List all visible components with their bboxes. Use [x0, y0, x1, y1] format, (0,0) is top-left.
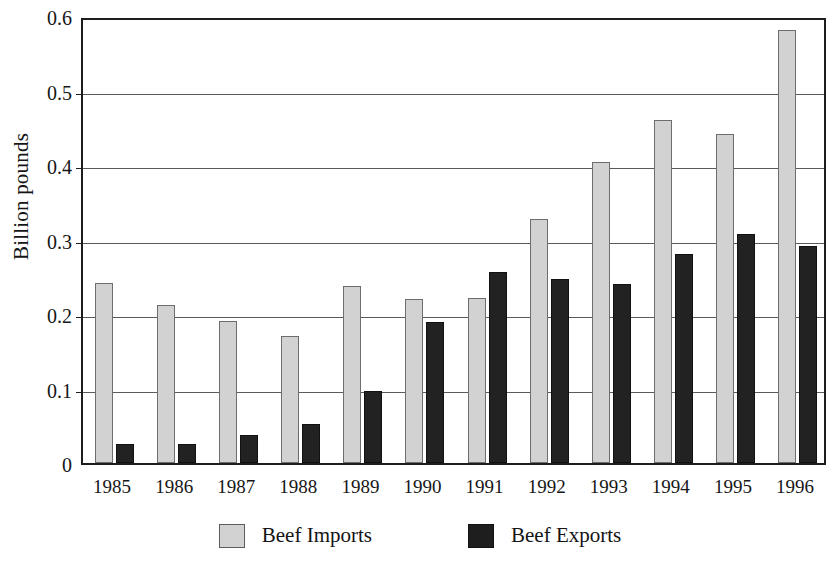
bar-imports: [281, 336, 299, 463]
bar-group: [269, 20, 331, 463]
bar-imports: [95, 283, 113, 463]
bar-exports: [799, 246, 817, 463]
bar-imports: [468, 298, 486, 463]
bar-group: [145, 20, 207, 463]
bar-imports: [778, 30, 796, 463]
bar-group: [331, 20, 393, 463]
bar-exports: [613, 284, 631, 463]
bar-exports: [240, 435, 258, 463]
y-axis-tick-mark: [76, 94, 83, 95]
y-axis-tick-label: 0.2: [8, 305, 72, 328]
legend-swatch-exports-icon: [468, 524, 494, 548]
plot-area: [81, 18, 826, 465]
x-axis-tick-labels: 1985198619871988198919901991199219931994…: [81, 476, 826, 510]
bar-imports: [343, 286, 361, 463]
bar-imports: [716, 134, 734, 463]
y-axis-tick-mark: [76, 168, 83, 169]
bar-exports: [737, 234, 755, 463]
y-axis-tick-label: 0.5: [8, 81, 72, 104]
bar-exports: [551, 279, 569, 463]
bar-imports: [157, 305, 175, 463]
bar-imports: [530, 219, 548, 463]
bar-exports: [178, 444, 196, 463]
y-axis-tick-label: 0: [8, 454, 72, 477]
legend-swatch-imports-icon: [219, 524, 245, 548]
bar-imports: [592, 162, 610, 463]
legend-item-exports[interactable]: Beef Exports: [468, 523, 621, 548]
bar-exports: [675, 254, 693, 463]
x-axis-tick-label-1996: 1996: [758, 476, 832, 498]
legend-item-imports[interactable]: Beef Imports: [219, 523, 372, 548]
y-axis-tick-mark: [76, 392, 83, 393]
bar-exports: [364, 391, 382, 463]
bar-exports: [426, 322, 444, 463]
bar-imports: [654, 120, 672, 463]
y-axis-tick-label: 0.3: [8, 230, 72, 253]
bar-exports: [489, 272, 507, 463]
y-axis-tick-label: 0.4: [8, 156, 72, 179]
bar-imports: [405, 299, 423, 463]
y-axis-tick-label: 0.6: [8, 7, 72, 30]
legend-label: Beef Exports: [511, 523, 621, 548]
y-axis-tick-mark: [76, 317, 83, 318]
bar-exports: [116, 444, 134, 463]
y-axis-tick-mark: [76, 243, 83, 244]
bar-group: [207, 20, 269, 463]
bar-group: [393, 20, 455, 463]
bar-group: [580, 20, 642, 463]
bar-group: [83, 20, 145, 463]
bar-imports: [219, 321, 237, 463]
bar-chart: Billion pounds 0.60.50.40.30.20.10 19851…: [0, 0, 840, 570]
bar-exports: [302, 424, 320, 463]
bar-group: [456, 20, 518, 463]
bar-group: [642, 20, 704, 463]
legend-label: Beef Imports: [262, 523, 372, 548]
bar-group: [704, 20, 766, 463]
y-axis-tick-label: 0.1: [8, 379, 72, 402]
bar-group: [518, 20, 580, 463]
bar-group: [766, 20, 828, 463]
chart-legend: Beef ImportsBeef Exports: [0, 523, 840, 548]
